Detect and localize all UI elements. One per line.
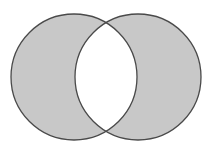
venn-diagram: [0, 0, 210, 150]
